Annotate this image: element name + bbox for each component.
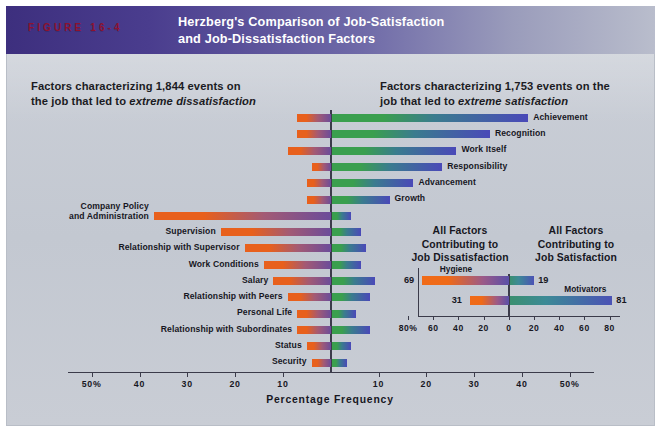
- main-chart: AchievementRecognitionWork ItselfRespons…: [6, 6, 655, 426]
- bar-label-line: Personal Life: [237, 307, 292, 317]
- axis-tick: [235, 372, 236, 377]
- bar-label-line: and Administration: [69, 211, 149, 221]
- inset-heading-left-line2: Contributing to: [404, 238, 516, 252]
- bar-label: Relationship with Peers: [183, 291, 282, 301]
- inset-axis-tick-label: 0: [506, 323, 511, 333]
- bar-dissatisfaction: [245, 244, 331, 252]
- bar-label-line: Status: [275, 340, 302, 350]
- axis-tick-label-left: 20: [229, 379, 240, 389]
- inset-axis-tick-label: 60: [579, 323, 590, 333]
- inset-bar-left: [470, 296, 509, 305]
- bar-label-line: Salary: [242, 275, 268, 285]
- bar-satisfaction: [332, 147, 456, 155]
- inset-axis-tick-label: 80%: [399, 323, 418, 333]
- bar-dissatisfaction: [288, 293, 331, 301]
- inset-axis-baseline: [418, 316, 620, 317]
- bar-label-line: Work Itself: [461, 144, 506, 154]
- inset-axis-tick-label: 40: [453, 323, 464, 333]
- bar-dissatisfaction: [264, 261, 331, 269]
- inset-heading-left-line1: All Factors: [404, 224, 516, 238]
- bar-label-line: Advancement: [418, 177, 475, 187]
- axis-tick-label-right: 50%: [560, 379, 580, 389]
- inset-heading-right-line1: All Factors: [520, 224, 632, 238]
- axis-tick: [426, 372, 427, 377]
- bar-label-line: Recognition: [495, 128, 546, 138]
- bar-label: Advancement: [418, 177, 475, 187]
- inset-value-left: 69: [404, 275, 414, 285]
- bar-label: Growth: [395, 193, 426, 203]
- bar-label: Company Policyand Administration: [69, 201, 149, 221]
- bar-label: Responsibility: [447, 161, 507, 171]
- bar-satisfaction: [332, 342, 351, 350]
- figure-container: FIGURE 16-4 Herzberg's Comparison of Job…: [6, 6, 655, 426]
- inset-axis-tick-label: 40: [554, 323, 565, 333]
- bar-dissatisfaction: [154, 212, 331, 220]
- bar-label-line: Achievement: [533, 112, 588, 122]
- bar-satisfaction: [332, 196, 389, 204]
- bar-dissatisfaction: [307, 196, 331, 204]
- bar-dissatisfaction: [297, 310, 330, 318]
- bar-dissatisfaction: [297, 130, 330, 138]
- bar-satisfaction: [332, 261, 361, 269]
- inset-axis-tick: [559, 316, 560, 320]
- inset-axis-tick: [584, 316, 585, 320]
- axis-tick: [522, 372, 523, 377]
- axis-tick-label-right: 40: [516, 379, 527, 389]
- inset-axis-tick: [458, 316, 459, 320]
- bar-dissatisfaction: [273, 277, 330, 285]
- bar-dissatisfaction: [288, 147, 331, 155]
- inset-bar-right: [510, 276, 534, 285]
- inset-axis-tick: [484, 316, 485, 320]
- axis-tick-label-right: 20: [421, 379, 432, 389]
- inset-axis-tick: [509, 316, 510, 320]
- inset-heading-right-line3: Job Satisfaction: [520, 251, 632, 265]
- bar-satisfaction: [332, 277, 375, 285]
- inset-axis-tick: [534, 316, 535, 320]
- bar-label-line: Security: [272, 356, 307, 366]
- axis-tick-label-right: 10: [373, 379, 384, 389]
- bar-label-line: Work Conditions: [189, 259, 259, 269]
- axis-tick: [92, 372, 93, 377]
- bar-satisfaction: [332, 130, 490, 138]
- bar-satisfaction: [332, 293, 370, 301]
- bar-label: Salary: [242, 275, 268, 285]
- bar-label: Security: [272, 356, 307, 366]
- axis-tick-label-left: 10: [277, 379, 288, 389]
- bar-label: Achievement: [533, 112, 588, 122]
- inset-axis-tick: [433, 316, 434, 320]
- bar-satisfaction: [332, 359, 346, 367]
- bar-dissatisfaction: [221, 228, 331, 236]
- bar-label: Relationship with Supervisor: [118, 242, 239, 252]
- bar-dissatisfaction: [312, 359, 331, 367]
- bar-dissatisfaction: [307, 342, 331, 350]
- bar-label-line: Supervision: [165, 226, 215, 236]
- axis-tick-label-left: 50%: [82, 379, 102, 389]
- bar-dissatisfaction: [297, 326, 330, 334]
- bar-label-line: Relationship with Peers: [183, 291, 282, 301]
- bar-satisfaction: [332, 310, 356, 318]
- axis-tick: [570, 372, 571, 377]
- bar-label: Work Itself: [461, 144, 506, 154]
- bar-satisfaction: [332, 179, 413, 187]
- axis-tick: [379, 372, 380, 377]
- inset-axis-tick-label: 80: [604, 323, 615, 333]
- inset-heading-dissatisfaction: All Factors Contributing to Job Dissatis…: [404, 224, 516, 265]
- bar-satisfaction: [332, 212, 351, 220]
- inset-value-right: 81: [616, 295, 626, 305]
- bar-satisfaction: [332, 326, 370, 334]
- bar-label-line: Relationship with Subordinates: [161, 324, 292, 334]
- bar-label: Personal Life: [237, 307, 292, 317]
- bar-satisfaction: [332, 228, 361, 236]
- bar-satisfaction: [332, 114, 528, 122]
- bar-satisfaction: [332, 244, 365, 252]
- inset-row-name: Hygiene: [440, 264, 472, 274]
- inset-axis-tick-label: 60: [428, 323, 439, 333]
- inset-summary-chart: All Factors Contributing to Job Dissatis…: [404, 224, 632, 344]
- bar-label: Supervision: [165, 226, 215, 236]
- bar-label: Relationship with Subordinates: [161, 324, 292, 334]
- inset-heading-satisfaction: All Factors Contributing to Job Satisfac…: [520, 224, 632, 265]
- inset-bar-left: [422, 276, 509, 285]
- axis-tick: [187, 372, 188, 377]
- axis-tick-label-right: 30: [468, 379, 479, 389]
- axis-tick: [140, 372, 141, 377]
